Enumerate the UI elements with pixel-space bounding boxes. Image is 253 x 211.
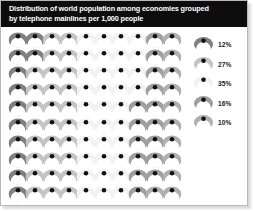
person-icon (111, 169, 130, 186)
pictogram-cell (43, 83, 60, 100)
person-icon (8, 31, 27, 48)
person-icon (146, 117, 165, 134)
person-icon (94, 48, 113, 65)
person-icon (194, 36, 213, 53)
person-icon (42, 151, 61, 168)
person-icon (8, 134, 27, 151)
pictogram-cell (26, 134, 43, 151)
pictogram-cell (78, 186, 95, 203)
person-icon (42, 31, 61, 48)
person-icon (60, 31, 79, 48)
pictogram-cell (9, 169, 26, 186)
pictogram-cell (129, 65, 146, 82)
person-icon (146, 100, 165, 117)
pictogram-cell (129, 151, 146, 168)
person-icon (8, 100, 27, 117)
person-icon (42, 83, 61, 100)
person-icon (25, 83, 44, 100)
pictogram-cell (112, 117, 129, 134)
person-icon (25, 169, 44, 186)
pictogram-cell (129, 48, 146, 65)
person-icon (163, 65, 182, 82)
person-icon (77, 100, 96, 117)
person-icon (94, 151, 113, 168)
person-icon (42, 186, 61, 203)
pictogram-cell (9, 151, 26, 168)
person-icon (25, 134, 44, 151)
person-icon (128, 169, 147, 186)
pictogram-cell (164, 31, 181, 48)
person-icon (42, 134, 61, 151)
pictogram-cell (112, 186, 129, 203)
pictogram-cell (112, 83, 129, 100)
person-icon (25, 151, 44, 168)
person-icon (111, 65, 130, 82)
pictogram-cell (112, 169, 129, 186)
person-icon (111, 31, 130, 48)
person-icon (77, 134, 96, 151)
person-icon (163, 31, 182, 48)
person-icon (25, 186, 44, 203)
pictogram-cell (61, 83, 78, 100)
pictogram-cell (26, 117, 43, 134)
person-icon (128, 117, 147, 134)
pictogram-cell (26, 65, 43, 82)
pictogram-cell (147, 65, 164, 82)
person-icon (111, 48, 130, 65)
pictogram-cell (95, 186, 112, 203)
pictogram-cell (147, 134, 164, 151)
person-icon (60, 48, 79, 65)
pictogram-cell (61, 48, 78, 65)
pictogram-cell (112, 31, 129, 48)
pictogram-cell (78, 117, 95, 134)
pictogram-cell (9, 31, 26, 48)
person-icon (94, 186, 113, 203)
pictogram-cell (43, 169, 60, 186)
chart-title-bar: Distribution of world population among e… (1, 1, 247, 27)
person-icon (163, 100, 182, 117)
pictogram-cell (78, 169, 95, 186)
pictogram-cell (61, 186, 78, 203)
pictogram-cell (95, 134, 112, 151)
pictogram-cell (147, 31, 164, 48)
pictogram-cell (43, 31, 60, 48)
pictogram-cell (61, 117, 78, 134)
pictogram-cell (95, 100, 112, 117)
legend-item-label: 16% (218, 100, 231, 107)
person-icon (42, 65, 61, 82)
page-title-line-1: Distribution of world population among e… (9, 4, 239, 14)
pictogram-cell (9, 65, 26, 82)
pictogram-cell (147, 48, 164, 65)
person-icon (146, 186, 165, 203)
person-icon (77, 117, 96, 134)
pictogram-cell (9, 186, 26, 203)
person-icon (163, 117, 182, 134)
pictogram-cell (164, 48, 181, 65)
pictogram-cell (78, 151, 95, 168)
pictogram-cell (61, 169, 78, 186)
person-icon (111, 134, 130, 151)
person-icon (94, 100, 113, 117)
person-icon (42, 117, 61, 134)
pictogram-cell (147, 100, 164, 117)
person-icon (163, 169, 182, 186)
person-icon (8, 48, 27, 65)
person-icon (60, 169, 79, 186)
pictogram-cell (95, 151, 112, 168)
pictogram-cell (129, 186, 146, 203)
person-icon (128, 100, 147, 117)
person-icon (128, 186, 147, 203)
pictogram-cell (129, 83, 146, 100)
pictogram-cell (61, 65, 78, 82)
pictogram-cell (147, 186, 164, 203)
person-icon (25, 100, 44, 117)
person-icon (60, 65, 79, 82)
person-icon (94, 31, 113, 48)
pictogram-cell (9, 117, 26, 134)
pictogram-cell (26, 48, 43, 65)
pictogram-cell (112, 48, 129, 65)
page-title-line-2: by telephone mainlines per 1,000 people (9, 14, 239, 24)
person-icon (94, 134, 113, 151)
pictogram-cell (26, 186, 43, 203)
pictogram-grid (9, 31, 181, 203)
